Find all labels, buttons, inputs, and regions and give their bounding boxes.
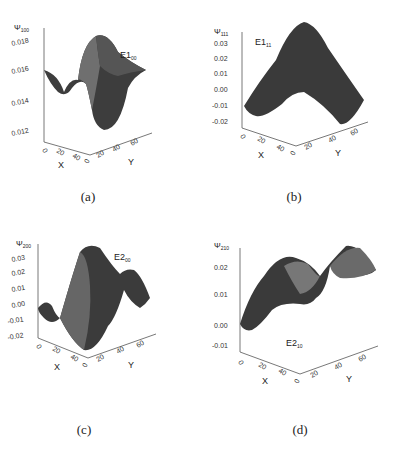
surface-plot-c: Ψ200 0.03 0.02 0.01 0.00 -0.01 -0.02 E20… [0,226,200,451]
svg-text:60: 60 [349,127,359,137]
figure-panel-b: Ψ111 0.03 0.02 0.01 0.00 -0.01 -0.02 E11… [200,0,400,225]
svg-text:0.014: 0.014 [11,96,30,107]
svg-text:20: 20 [258,361,268,371]
annotation-label: E111 [255,37,271,48]
svg-text:0.00: 0.00 [11,300,26,309]
svg-text:0: 0 [289,150,297,157]
svg-text:0.018: 0.018 [11,36,30,47]
svg-text:0.02: 0.02 [214,264,228,271]
svg-text:20: 20 [303,141,313,151]
svg-text:-0.02: -0.02 [212,118,228,125]
svg-text:20: 20 [257,135,267,145]
svg-text:0.016: 0.016 [11,64,30,75]
svg-text:0.03: 0.03 [11,254,26,263]
svg-text:20: 20 [52,345,62,355]
surface-plot-d: Ψ210 0.02 0.01 0.00 -0.01 E210 0 20 40 X… [200,226,400,451]
svg-text:20: 20 [56,147,66,157]
x-axis-label: X [58,160,64,170]
svg-text:0: 0 [237,359,245,366]
svg-text:-0.01: -0.01 [7,315,24,325]
svg-text:20: 20 [95,353,105,363]
z-axis-label: Ψ210 [214,241,229,251]
annotation-label: E210 [286,338,303,349]
svg-text:40: 40 [115,345,125,355]
svg-text:0: 0 [35,343,43,350]
svg-text:0.01: 0.01 [214,291,228,298]
svg-text:0.00: 0.00 [214,86,228,93]
caption-c: (c) [64,422,104,438]
svg-text:-0.01: -0.01 [212,342,228,349]
svg-text:40: 40 [333,361,343,371]
svg-text:-0.02: -0.02 [7,331,24,341]
svg-text:0: 0 [293,378,301,385]
svg-text:0.02: 0.02 [11,268,26,277]
svg-text:-0.01: -0.01 [212,102,228,109]
caption-a: (a) [68,189,108,205]
annotation-label: E200 [114,252,131,263]
z-axis-label: Ψ200 [16,239,31,249]
svg-text:0: 0 [41,147,49,154]
y-axis-label: Y [346,374,352,384]
y-axis-label: Y [335,148,341,158]
svg-text:0.00: 0.00 [214,322,228,329]
svg-text:0.01: 0.01 [11,284,26,293]
svg-text:0.012: 0.012 [11,126,30,137]
svg-text:0: 0 [83,158,91,165]
x-axis-label: X [258,150,264,160]
svg-text:0.01: 0.01 [214,70,228,77]
y-axis-label: Y [128,360,134,370]
svg-text:0: 0 [81,362,89,369]
svg-text:40: 40 [72,152,82,162]
svg-text:0: 0 [239,133,247,140]
svg-text:40: 40 [276,143,286,153]
caption-b: (b) [274,189,314,205]
svg-text:0.02: 0.02 [214,55,228,62]
figure-panel-c: Ψ200 0.03 0.02 0.01 0.00 -0.01 -0.02 E20… [0,226,200,451]
x-axis-label: X [262,376,268,386]
svg-text:40: 40 [278,367,288,377]
z-axis-label: Ψ111 [214,27,229,37]
caption-d: (d) [280,422,320,438]
z-axis-label: Ψ100 [14,23,29,33]
y-axis-label: Y [128,157,134,167]
figure-panel-a: Ψ100 0.018 0.016 0.014 0.012 E100 0 20 4… [0,0,200,225]
x-axis-label: X [54,362,60,372]
annotation-label: E100 [120,50,137,61]
svg-text:60: 60 [357,353,367,363]
svg-text:0.03: 0.03 [214,40,228,47]
svg-text:60: 60 [135,339,145,349]
figure-panel-d: Ψ210 0.02 0.01 0.00 -0.01 E210 0 20 40 X… [200,226,400,451]
